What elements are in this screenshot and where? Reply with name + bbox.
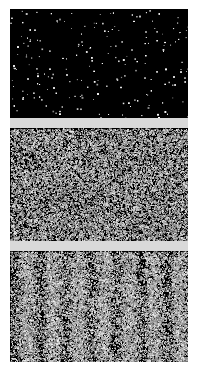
panel-gap-2 <box>10 241 188 251</box>
panel-dense-speckle <box>10 128 188 241</box>
panel-fringed-speckle <box>10 251 188 362</box>
figure-container <box>0 0 198 375</box>
panel-1-canvas <box>10 9 188 118</box>
panel-sparse-speckle <box>10 9 188 118</box>
panel-2-canvas <box>10 128 188 241</box>
panel-gap-1 <box>10 118 188 128</box>
panel-3-canvas <box>10 251 188 362</box>
